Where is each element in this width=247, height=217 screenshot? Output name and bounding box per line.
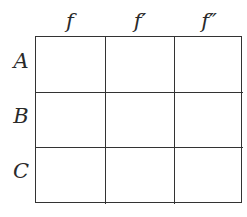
column-header-f: f [35, 9, 105, 33]
cell-c-f-double-prime[interactable] [175, 148, 243, 204]
cell-a-f-double-prime[interactable] [175, 37, 243, 93]
cell-a-f[interactable] [36, 37, 106, 93]
matching-grid [35, 36, 242, 203]
row-header-b: B [10, 104, 32, 128]
column-header-f-prime: f′ [105, 9, 175, 33]
row-header-a: A [10, 49, 32, 73]
cell-b-f[interactable] [36, 93, 106, 148]
column-header-f-double-prime: f″ [174, 9, 244, 33]
cell-a-f-prime[interactable] [106, 37, 175, 93]
cell-b-f-prime[interactable] [106, 93, 175, 148]
cell-b-f-double-prime[interactable] [175, 93, 243, 148]
row-header-c: C [10, 159, 32, 183]
cell-c-f[interactable] [36, 148, 106, 204]
cell-c-f-prime[interactable] [106, 148, 175, 204]
